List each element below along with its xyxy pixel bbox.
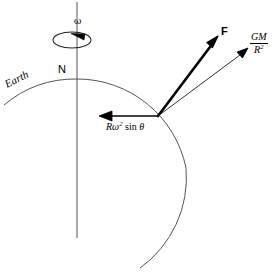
gravity-denominator: R2	[250, 45, 268, 55]
gravity-denominator-exponent: 2	[260, 43, 263, 50]
north-pole-label: N	[58, 64, 66, 75]
centrifugal-term-label: Rω2 sin θ	[106, 122, 144, 132]
centrifugal-angle: θ	[139, 121, 144, 132]
force-arrowhead-icon	[207, 36, 218, 48]
angular-velocity-label: ω	[74, 17, 81, 26]
gravity-numerator: GM	[250, 32, 268, 43]
force-vector-line	[158, 43, 213, 116]
diagram-canvas	[0, 0, 275, 279]
physics-diagram: ω N Earth F GM R2 Rω2 sin θ	[0, 0, 275, 279]
centrifugal-prefix: Rω	[106, 121, 119, 132]
force-resultant-label: F	[221, 26, 228, 37]
earth-limb-arc	[4, 79, 186, 268]
centrifugal-arrowhead-icon	[99, 111, 112, 121]
gravity-vector-line	[158, 52, 244, 116]
gravity-term-label: GM R2	[250, 32, 268, 55]
spin-ellipse	[53, 32, 91, 48]
spin-arrowhead-icon	[71, 34, 85, 41]
centrifugal-sine-word: sin	[123, 121, 140, 132]
